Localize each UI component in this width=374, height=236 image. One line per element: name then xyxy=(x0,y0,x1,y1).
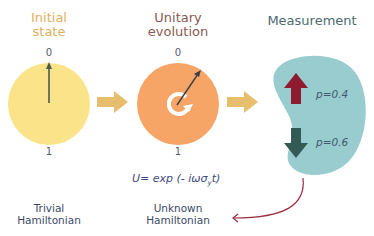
unitary-evolution-caption: Unknown Hamiltonian xyxy=(128,202,228,226)
title-line: evolution xyxy=(133,25,223,39)
basis-label-1: 1 xyxy=(39,146,59,157)
spin-down-probability: p=0.6 xyxy=(316,136,348,148)
unitary-formula: U= exp (- iωσyt) xyxy=(132,172,252,187)
flow-arrow-icon xyxy=(97,91,128,113)
unitary-evolution-title: Unitary evolution xyxy=(133,11,223,39)
measurement-blob xyxy=(273,56,365,175)
formula-end: t) xyxy=(212,172,221,185)
caption-line: Hamiltonian xyxy=(128,214,228,226)
basis-label-0: 0 xyxy=(168,47,188,58)
caption-line: Trivial xyxy=(0,202,98,214)
formula-main: U= exp (- iωσ xyxy=(132,172,208,185)
title-line: Initial xyxy=(4,11,94,25)
spin-up-probability: p=0.4 xyxy=(316,88,348,100)
caption-line: Hamiltonian xyxy=(0,214,98,226)
initial-state-caption: Trivial Hamiltonian xyxy=(0,202,98,226)
basis-label-0: 0 xyxy=(39,47,59,58)
title-line: state xyxy=(4,25,94,39)
basis-label-1: 1 xyxy=(168,146,188,157)
initial-state-title: Initial state xyxy=(4,11,94,39)
measurement-title: Measurement xyxy=(262,14,362,28)
title-line: Unitary xyxy=(133,11,223,25)
flow-arrow-icon xyxy=(227,91,258,113)
caption-line: Unknown xyxy=(128,202,228,214)
